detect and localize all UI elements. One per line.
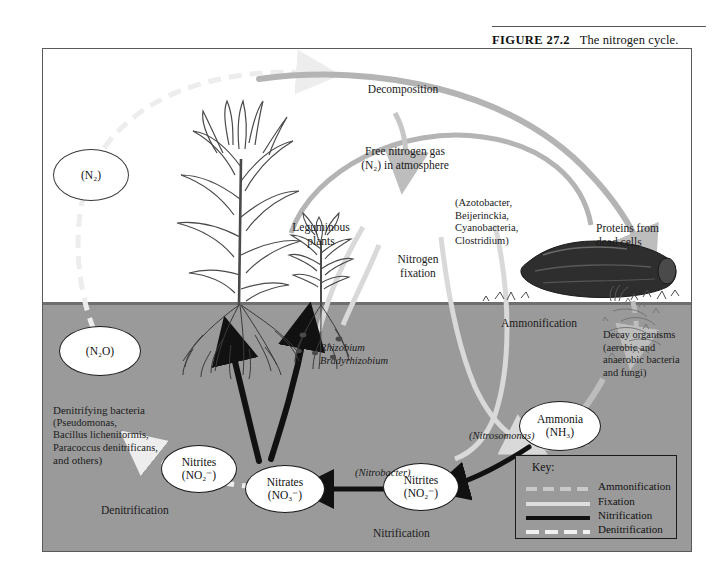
rhizobium-line2: Bradyrhizobium (320, 355, 388, 368)
nitrate-uptake-plant (231, 345, 259, 461)
fixers-line4: Clostridium) (455, 235, 518, 248)
legend-label-denitrification: Denitrification (598, 523, 663, 535)
label-nitrogen-fixation: Nitrogen fixation (398, 253, 439, 280)
node-n2o-label: (N₂O) (86, 345, 114, 358)
denitrifying-line2: (Pseudomonas, (53, 417, 158, 430)
fixers-line2: Beijerinckia, (455, 210, 518, 223)
legend-box: Key: Ammonification Fixation Nitrificati… (515, 455, 677, 539)
node-n2-atmospheric: (N₂) (53, 149, 129, 201)
free-nitrogen-line1: Free nitrogen gas (361, 145, 449, 159)
label-fixing-bacteria: (Azotobacter, Beijerinckia, Cyanobacteri… (455, 197, 518, 247)
legend-item-ammonification: Ammonification (526, 481, 668, 496)
label-free-nitrogen-gas: Free nitrogen gas (N₂) in atmosphere (361, 145, 449, 172)
decay-line2: (aerobic and (603, 342, 680, 355)
node-nitrates-line1: Nitrates (267, 476, 303, 489)
decay-line1: Decay organisms (603, 329, 680, 342)
denitrifying-line3: Bacillus licheniformis, (53, 429, 158, 442)
legend-label-nitrification: Nitrification (598, 509, 652, 521)
figure-container: FIGURE 27.2 The nitrogen cycle. (0, 0, 722, 582)
legend-label-ammonification: Ammonification (598, 480, 671, 492)
label-leguminous-plants: Leguminous plants (292, 221, 350, 248)
legend-label-fixation: Fixation (598, 495, 635, 507)
node-ammonia: Ammonia (NH₃) (519, 401, 601, 451)
figure-caption: FIGURE 27.2 The nitrogen cycle. (492, 33, 712, 48)
label-rhizobium: Rhizobium Bradyrhizobium (320, 342, 388, 367)
proteins-line2: dead cells (596, 236, 659, 250)
denitrifying-line5: and others) (53, 454, 158, 467)
node-nitrates-line2: (NO₃⁻) (268, 489, 302, 502)
decay-line4: and fungi) (603, 367, 680, 380)
label-proteins-dead-cells: Proteins from dead cells (596, 222, 659, 249)
fixers-line1: (Azotobacter, (455, 197, 518, 210)
node-nitrites-left-line1: Nitrites (182, 456, 217, 469)
label-denitrifying-bacteria: Denitrifying bacteria (Pseudomonas, Baci… (53, 404, 158, 467)
label-ammonification: Ammonification (501, 317, 577, 331)
figure-title: The nitrogen cycle. (580, 33, 679, 47)
node-n2-label: (N₂) (81, 169, 101, 182)
denitrifying-line1: Denitrifying bacteria (53, 404, 158, 417)
label-decomposition: Decomposition (368, 83, 438, 97)
node-n2o: (N₂O) (59, 326, 141, 376)
label-nitrobacter: (Nitrobacter) (355, 467, 411, 480)
node-nitrites-left: Nitrites (NO₂⁻) (161, 445, 237, 493)
proteins-line1: Proteins from (596, 222, 659, 236)
label-nitrosomonas: (Nitrosomonas) (469, 430, 535, 443)
legend-swatch-ammonification (526, 487, 590, 491)
node-nitrites-right-line2: (NO₂⁻) (404, 487, 438, 500)
label-denitrification: Denitrification (101, 504, 169, 518)
nitrogen-fixation-line1: Nitrogen (398, 253, 439, 267)
legend-swatch-fixation (526, 502, 590, 506)
figure-number: FIGURE 27.2 (492, 33, 570, 47)
dead-log-illustration (521, 241, 676, 298)
caption-rule (492, 26, 706, 27)
label-nitrification: Nitrification (373, 527, 430, 541)
corn-roots-illustration (183, 305, 299, 379)
free-nitrogen-line2: (N₂) in atmosphere (361, 159, 449, 173)
rhizobium-line1: Rhizobium (320, 342, 388, 355)
legend-item-denitrification: Denitrification (526, 524, 668, 539)
corn-plant-illustration (177, 101, 301, 305)
legend-title: Key: (532, 461, 554, 473)
nitrogen-fixation-line2: fixation (398, 267, 439, 281)
leguminous-line1: Leguminous (292, 221, 350, 235)
node-nitrates: Nitrates (NO₃⁻) (245, 465, 325, 513)
decay-line3: anaerobic bacteria (603, 354, 680, 367)
node-nitrites-left-line2: (NO₂⁻) (182, 469, 216, 482)
legend-swatch-nitrification (526, 516, 590, 520)
fixers-line3: Cyanobacteria, (455, 222, 518, 235)
legend-swatch-denitrification (526, 530, 590, 534)
leguminous-line2: plants (292, 235, 350, 249)
denitrifying-line4: Paracoccus denitrificans, (53, 442, 158, 455)
node-ammonia-line2: (NH₃) (546, 426, 574, 439)
node-ammonia-line1: Ammonia (537, 413, 583, 426)
label-decay-organisms: Decay organisms (aerobic and anaerobic b… (603, 329, 680, 379)
diagram-frame: (N₂) (N₂O) Nitrites (NO₂⁻) Nitrates (NO₃… (42, 48, 692, 552)
